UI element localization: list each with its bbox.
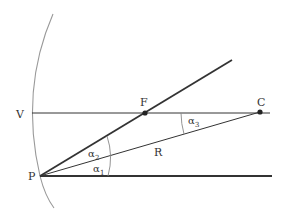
label-f: F xyxy=(140,96,148,109)
radius-line-r xyxy=(40,112,260,176)
label-alpha3-sub: 3 xyxy=(195,121,199,129)
label-alpha2-sub: 2 xyxy=(95,154,99,162)
ray-through-f xyxy=(40,60,232,176)
mirror-diagram: V F C P R α 2 α 1 α 3 xyxy=(0,0,285,217)
label-alpha3: α xyxy=(188,115,195,126)
label-alpha2: α xyxy=(88,148,95,159)
label-c: C xyxy=(257,96,265,109)
label-v: V xyxy=(15,108,25,121)
mirror-arc xyxy=(32,14,54,208)
point-c xyxy=(257,109,262,114)
label-alpha1: α xyxy=(93,163,100,174)
label-alpha1-sub: 1 xyxy=(100,169,104,177)
point-f xyxy=(142,110,147,115)
label-r: R xyxy=(154,146,163,159)
angle-arc-c xyxy=(181,113,184,134)
label-p: P xyxy=(28,170,36,183)
